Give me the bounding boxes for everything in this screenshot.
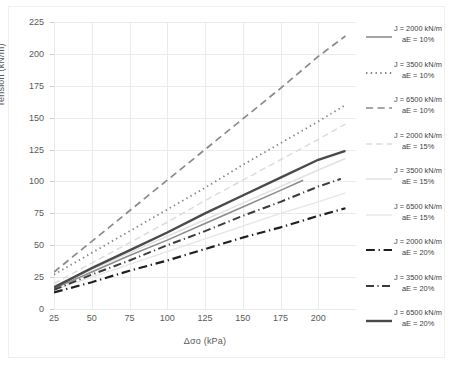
legend-label-line1: J = 6500 kN/m <box>394 94 453 105</box>
legend-label: J = 6500 kN/maE = 10% <box>394 94 453 117</box>
legend-item[interactable]: J = 6500 kN/maE = 15% <box>366 202 452 232</box>
legend-label-line2: aE = 10% <box>394 34 453 45</box>
y-tick-label: 200 <box>0 49 44 59</box>
y-tick-label: 25 <box>0 272 44 282</box>
legend-label: J = 6500 kN/maE = 20% <box>394 307 453 330</box>
legend-label-line2: aE = 10% <box>394 70 453 81</box>
legend-swatch-icon <box>366 312 392 322</box>
legend-label-line2: aE = 15% <box>394 176 453 187</box>
legend-item[interactable]: J = 2000 kN/maE = 15% <box>366 131 452 161</box>
legend-label-line1: J = 2000 kN/m <box>394 23 453 34</box>
series-line <box>54 124 345 283</box>
series-line <box>54 193 345 290</box>
x-tick-label: 50 <box>72 313 112 323</box>
series-line <box>54 179 341 290</box>
legend-label-line2: aE = 20% <box>394 247 453 258</box>
x-tick-label: 200 <box>298 313 338 323</box>
y-tick-label: 75 <box>0 208 44 218</box>
legend-label-line1: J = 6500 kN/m <box>394 307 453 318</box>
legend-label-line2: aE = 20% <box>394 318 453 329</box>
legend-label: J = 2000 kN/maE = 20% <box>394 236 453 259</box>
series-line <box>54 208 345 292</box>
legend-swatch-icon <box>366 277 392 287</box>
x-tick-label: 100 <box>147 313 187 323</box>
legend-label: J = 2000 kN/maE = 10% <box>394 23 453 46</box>
series-line <box>54 36 345 272</box>
legend-label-line2: aE = 10% <box>394 105 453 116</box>
series-line <box>54 158 345 286</box>
series-line <box>54 105 345 275</box>
legend-label-line2: aE = 15% <box>394 141 453 152</box>
legend-label-line1: J = 3500 kN/m <box>394 165 453 176</box>
series-lines <box>54 22 356 309</box>
legend-label: J = 3500 kN/maE = 15% <box>394 165 453 188</box>
x-tick-label: 150 <box>223 313 263 323</box>
legend-label: J = 3500 kN/maE = 20% <box>394 272 453 295</box>
legend-label-line1: J = 6500 kN/m <box>394 201 453 212</box>
legend-label-line2: aE = 20% <box>394 283 453 294</box>
legend-label: J = 2000 kN/maE = 15% <box>394 130 453 153</box>
legend-swatch-icon <box>366 64 392 74</box>
legend-item[interactable]: J = 3500 kN/maE = 10% <box>366 60 452 90</box>
x-tick-label: 125 <box>185 313 225 323</box>
plot-area <box>54 22 356 309</box>
x-tick-label: 75 <box>110 313 150 323</box>
y-tick-label: 225 <box>0 17 44 27</box>
legend-swatch-icon <box>366 170 392 180</box>
y-tick-label: 125 <box>0 145 44 155</box>
gridline-horizontal <box>54 309 356 310</box>
legend-swatch-icon <box>366 206 392 216</box>
y-tick-label: 50 <box>0 240 44 250</box>
legend-label-line1: J = 3500 kN/m <box>394 59 453 70</box>
legend-item[interactable]: J = 6500 kN/maE = 20% <box>366 308 452 338</box>
legend-label: J = 6500 kN/maE = 15% <box>394 201 453 224</box>
legend-item[interactable]: J = 2000 kN/maE = 10% <box>366 24 452 54</box>
series-line <box>54 180 303 288</box>
legend-label: J = 3500 kN/maE = 10% <box>394 59 453 82</box>
legend-swatch-icon <box>366 135 392 145</box>
legend-swatch-icon <box>366 99 392 109</box>
legend-label-line1: J = 2000 kN/m <box>394 130 453 141</box>
chart-legend: J = 2000 kN/maE = 10%J = 3500 kN/maE = 1… <box>366 24 452 344</box>
legend-item[interactable]: J = 2000 kN/maE = 20% <box>366 237 452 267</box>
y-tick-label: 175 <box>0 81 44 91</box>
legend-item[interactable]: J = 6500 kN/maE = 10% <box>366 95 452 125</box>
legend-label-line1: J = 2000 kN/m <box>394 236 453 247</box>
y-tick-label: 100 <box>0 176 44 186</box>
legend-label-line2: aE = 15% <box>394 212 453 223</box>
legend-swatch-icon <box>366 28 392 38</box>
y-tick-label: 150 <box>0 113 44 123</box>
x-tick-label: 175 <box>261 313 301 323</box>
chart-page: Tension (kN/m) Δσo (kPa) 025507510012515… <box>0 0 453 372</box>
legend-label-line1: J = 3500 kN/m <box>394 272 453 283</box>
x-axis-title: Δσo (kPa) <box>54 336 356 346</box>
legend-item[interactable]: J = 3500 kN/maE = 20% <box>366 273 452 303</box>
legend-item[interactable]: J = 3500 kN/maE = 15% <box>366 166 452 196</box>
legend-swatch-icon <box>366 241 392 251</box>
x-tick-label: 25 <box>34 313 74 323</box>
